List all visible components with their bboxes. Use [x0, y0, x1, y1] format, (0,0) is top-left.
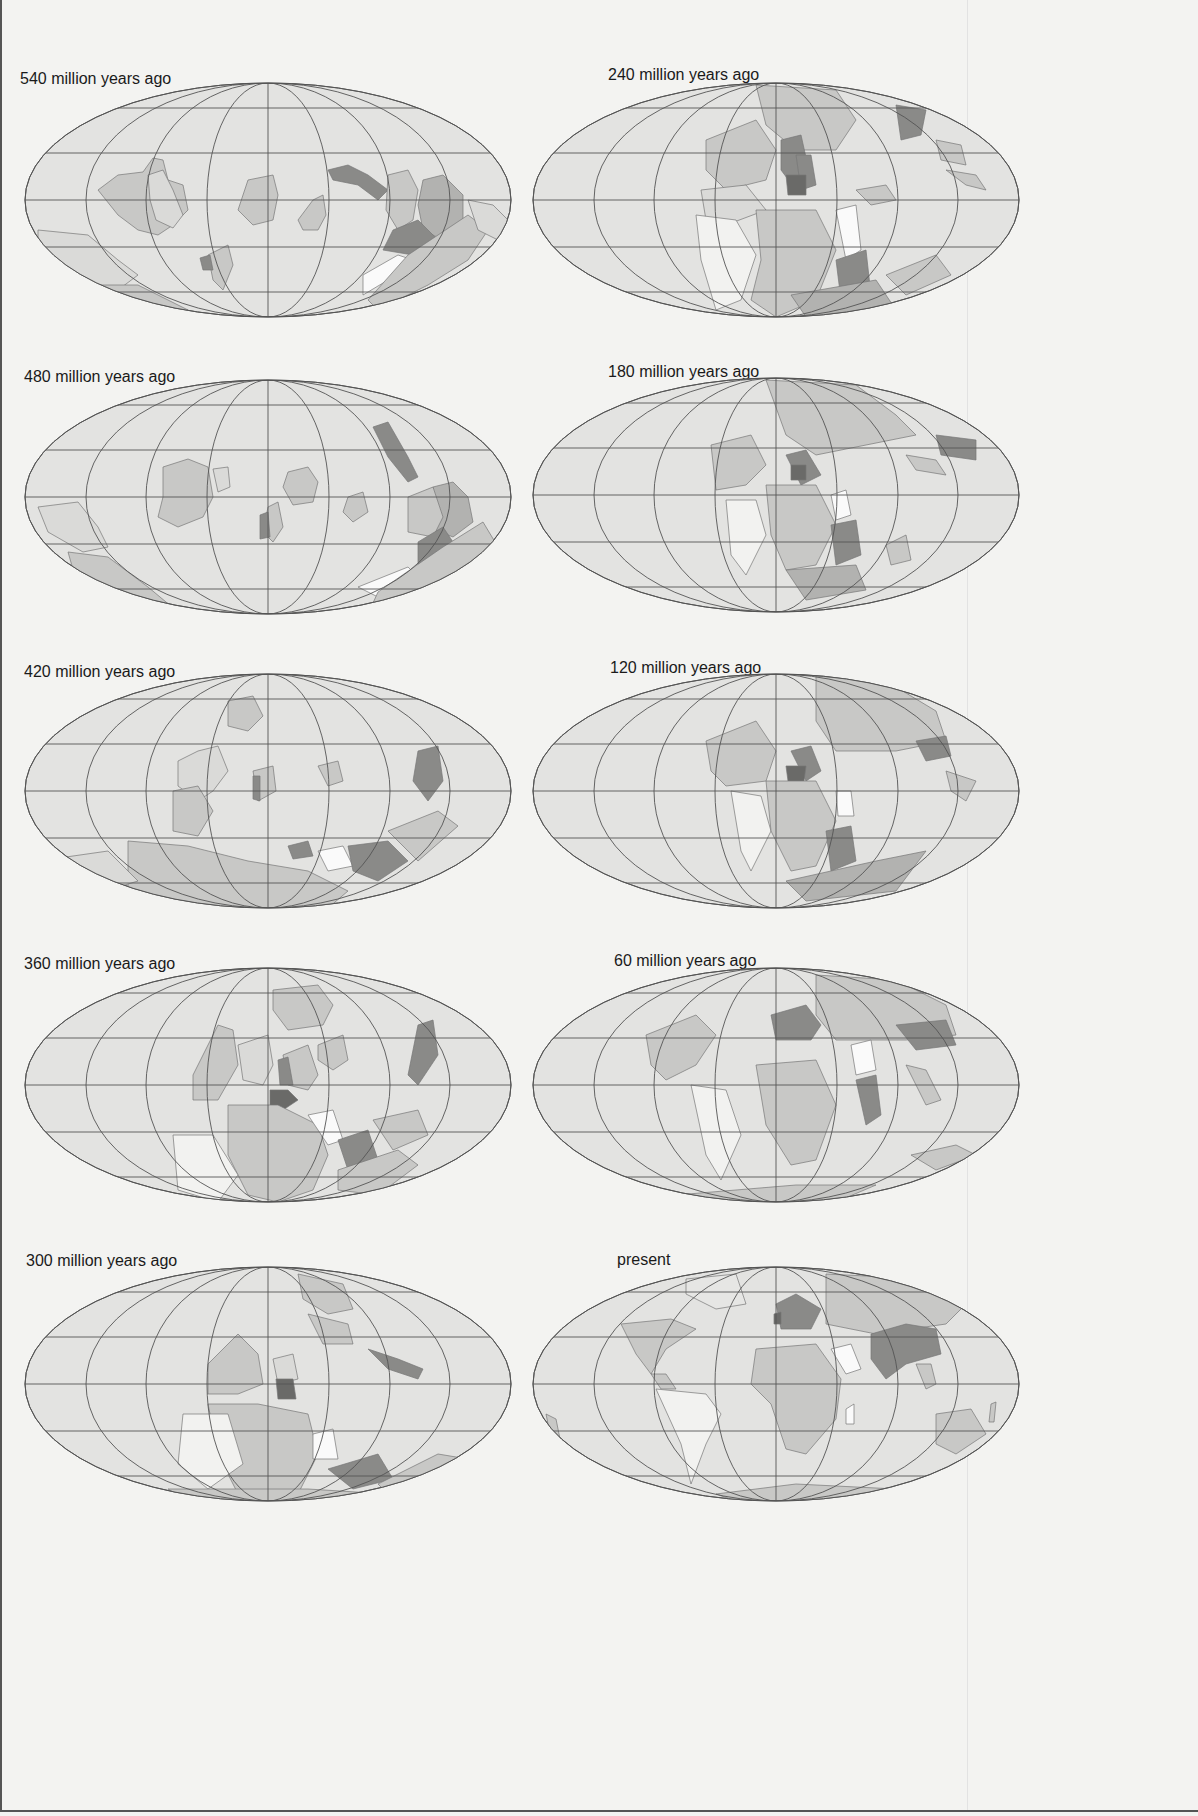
- map-360-million-years: [25, 968, 511, 1202]
- map-present: [533, 1267, 1019, 1501]
- map-240-million-years: [533, 83, 1019, 317]
- map-540-million-years: [25, 83, 511, 317]
- map-180-million-years: [533, 378, 1019, 612]
- map-120-million-years: [533, 674, 1019, 908]
- map-label-240: 240 million years ago: [608, 66, 759, 84]
- map-420-million-years: [25, 674, 511, 908]
- page-border-bottom: [0, 1810, 1198, 1812]
- map-300-million-years: [25, 1267, 511, 1501]
- map-60-million-years: [533, 968, 1019, 1202]
- page-border-left: [0, 0, 2, 1812]
- map-480-million-years: [25, 380, 511, 614]
